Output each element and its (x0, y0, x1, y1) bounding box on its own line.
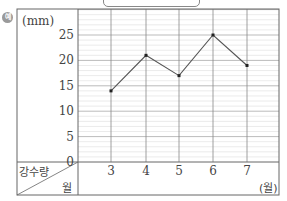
svg-text:25: 25 (59, 28, 74, 42)
x-tick-labels: 34567 (107, 164, 251, 178)
svg-text:7: 7 (243, 164, 251, 178)
header-col-label: 월 (62, 182, 72, 195)
svg-text:10: 10 (59, 104, 74, 118)
line-chart: (mm) 강수량 월 (월) 0510152025 34567 (0, 0, 287, 201)
major-grid (78, 10, 279, 137)
svg-text:4: 4 (142, 164, 150, 178)
svg-text:6: 6 (209, 164, 217, 178)
svg-text:3: 3 (107, 164, 115, 178)
y-tick-labels: 0510152025 (59, 28, 74, 169)
header-row-label: 강수량 (19, 166, 49, 179)
x-unit-label: (월) (259, 182, 278, 195)
svg-text:0: 0 (66, 155, 74, 169)
svg-text:20: 20 (59, 53, 74, 67)
svg-text:5: 5 (175, 164, 183, 178)
y-unit-label: (mm) (22, 14, 54, 28)
svg-text:15: 15 (59, 79, 74, 93)
svg-text:5: 5 (66, 130, 74, 144)
